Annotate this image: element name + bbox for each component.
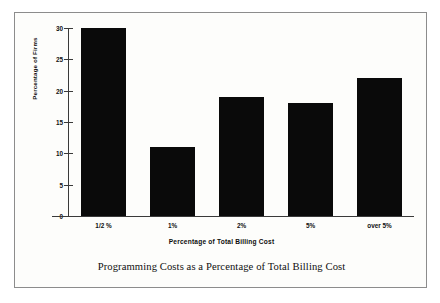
bar-chart: Percentage of Firms 051015202530 1/2 %1%… <box>15 13 428 241</box>
bar <box>81 28 126 216</box>
bar <box>150 147 195 216</box>
y-tick-mark <box>64 122 73 123</box>
x-tick-label: 1% <box>138 222 207 229</box>
x-tick-label: over 5% <box>345 222 414 229</box>
figure-caption: Programming Costs as a Percentage of Tot… <box>15 261 428 272</box>
y-tick-mark <box>64 91 73 92</box>
y-tick-mark <box>64 28 73 29</box>
x-tick-label: 1/2 % <box>69 222 138 229</box>
bars-layer <box>15 13 428 241</box>
x-axis-title: Percentage of Total Billing Cost <box>15 238 428 245</box>
bar <box>219 97 264 216</box>
bar <box>288 103 333 216</box>
x-axis-tick-labels: 1/2 %1%2%5%over 5% <box>15 222 428 236</box>
x-tick-label: 5% <box>276 222 345 229</box>
y-tick-mark <box>64 59 73 60</box>
y-tick-mark <box>64 153 73 154</box>
bar <box>357 78 402 216</box>
y-tick-mark <box>64 216 73 217</box>
y-tick-mark <box>64 185 73 186</box>
x-tick-label: 2% <box>207 222 276 229</box>
figure-frame: Percentage of Firms 051015202530 1/2 %1%… <box>14 12 427 288</box>
